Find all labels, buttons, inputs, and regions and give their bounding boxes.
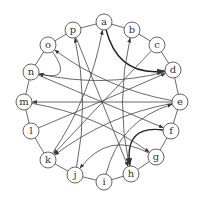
ring-edge-k-l — [35, 138, 44, 153]
ring-edge-n-o — [35, 52, 43, 65]
node-i: i — [96, 174, 112, 190]
edge-l-to-d — [38, 73, 165, 127]
ring-edge-g-h — [138, 161, 150, 169]
ring-edge-e-f — [173, 110, 177, 124]
node-e: e — [172, 94, 188, 110]
ring-edge-b-c — [139, 34, 150, 41]
edge-d-to-n — [39, 72, 165, 81]
graph-canvas: abcdefghijklmnop — [0, 0, 199, 200]
node-label: j — [72, 169, 76, 180]
ring-edge-j-k — [55, 164, 68, 171]
node-label: h — [128, 168, 135, 179]
node-label: a — [101, 16, 107, 27]
node-label: b — [129, 24, 135, 35]
node-c: c — [149, 37, 165, 53]
node-n: n — [23, 64, 39, 80]
node-h: h — [123, 166, 139, 182]
ring-edge-f-g — [160, 138, 167, 150]
node-label: p — [70, 24, 76, 35]
ring-edge-h-i — [112, 176, 124, 179]
ring-edge-c-d — [161, 52, 168, 64]
node-j: j — [67, 167, 83, 183]
edge-g-to-j — [80, 145, 149, 168]
ring-edge-o-p — [55, 34, 66, 41]
edge-j-to-p — [75, 38, 83, 167]
node-l: l — [23, 123, 39, 139]
node-label: l — [29, 125, 32, 136]
edge-i-to-e — [106, 104, 172, 174]
node-g: g — [148, 149, 164, 165]
ring-edge-p-a — [81, 24, 97, 28]
node-o: o — [40, 37, 56, 53]
node-label: g — [153, 151, 160, 162]
node-p: p — [65, 22, 81, 38]
edge-o-to-n — [39, 52, 60, 76]
node-k: k — [40, 152, 56, 168]
node-f: f — [163, 123, 179, 139]
ring-edge-i-j — [83, 177, 96, 180]
node-label: e — [177, 96, 183, 107]
node-label: i — [102, 176, 105, 187]
edge-e-to-o — [55, 50, 172, 101]
node-m: m — [16, 94, 32, 110]
node-label: k — [45, 154, 52, 165]
ring-edge-l-m — [26, 110, 29, 123]
node-label: m — [19, 96, 29, 107]
ring-edge-a-b — [112, 24, 125, 28]
node-b: b — [124, 22, 140, 38]
node-d: d — [165, 62, 181, 78]
node-label: o — [45, 39, 51, 50]
ring-edge-m-n — [26, 80, 29, 94]
ring-edge-d-e — [175, 78, 179, 94]
node-label: n — [28, 66, 35, 77]
node-a: a — [96, 14, 112, 30]
node-label: c — [154, 39, 160, 50]
node-label: d — [170, 64, 177, 75]
